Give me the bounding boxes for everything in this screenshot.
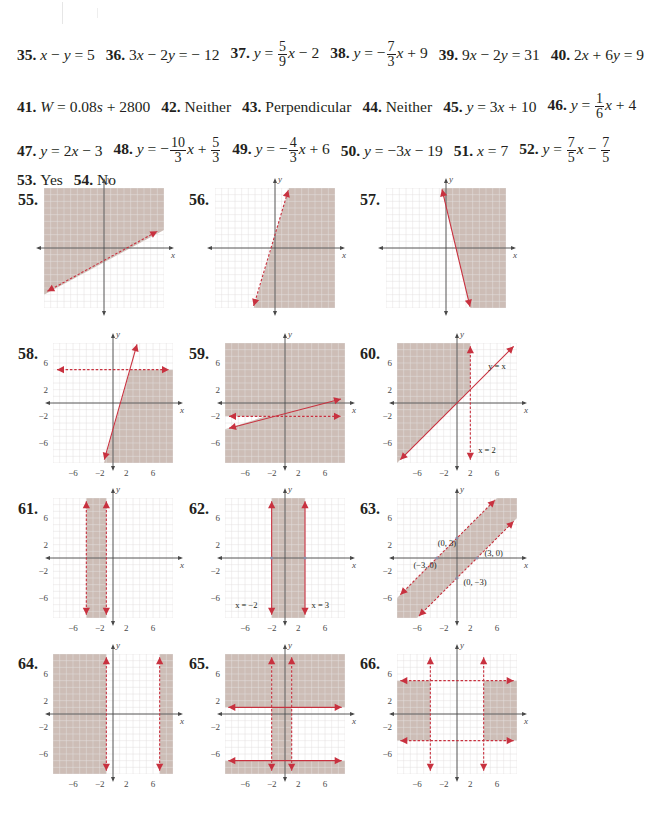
svg-text:−6: −6 xyxy=(68,468,78,478)
math-text: = − xyxy=(360,44,385,61)
svg-text:x: x xyxy=(341,250,346,260)
math-text: 2 xyxy=(574,46,582,63)
svg-text:−6: −6 xyxy=(240,779,250,789)
math-text: + 10 xyxy=(504,98,536,115)
svg-text:−6: −6 xyxy=(68,779,78,789)
answer-number: 42. xyxy=(161,98,184,115)
answer-item: 38. y = −73x + 9 xyxy=(330,40,428,69)
svg-text:(−3, 0): (−3, 0) xyxy=(413,560,436,570)
graph-number-59: 59. xyxy=(189,345,209,363)
answer-number: 35. xyxy=(17,46,40,63)
svg-text:−6: −6 xyxy=(382,749,392,759)
svg-text:x: x xyxy=(523,405,528,415)
answer-number: 38. xyxy=(330,44,353,61)
math-text: − 2 xyxy=(295,44,319,61)
answer-item: 39. 9x − 2y = 31 xyxy=(439,47,540,63)
svg-text:y: y xyxy=(115,640,120,650)
svg-text:−2: −2 xyxy=(382,722,392,732)
svg-text:−2: −2 xyxy=(439,623,449,633)
svg-text:x = 2: x = 2 xyxy=(478,445,496,455)
math-variable: y xyxy=(571,96,578,113)
page-edge-mark xyxy=(97,8,98,18)
svg-text:(0, 3): (0, 3) xyxy=(438,538,457,548)
svg-text:−6: −6 xyxy=(38,438,48,448)
svg-text:x: x xyxy=(179,405,184,415)
svg-text:6: 6 xyxy=(44,513,49,523)
math-variable: y xyxy=(168,46,175,63)
svg-text:6: 6 xyxy=(323,623,328,633)
math-variable: x xyxy=(605,96,612,113)
math-variable: x xyxy=(470,46,477,63)
svg-text:−2: −2 xyxy=(439,468,449,478)
svg-text:y: y xyxy=(459,484,464,494)
answer-number: 50. xyxy=(341,142,364,159)
svg-text:−6: −6 xyxy=(240,623,250,633)
fraction: 75 xyxy=(567,136,576,165)
fraction: 43 xyxy=(289,136,298,165)
svg-text:2: 2 xyxy=(124,779,129,789)
svg-text:6: 6 xyxy=(151,623,156,633)
answer-item: 40. 2x + 6y = 9 xyxy=(551,47,644,63)
answer-number: 40. xyxy=(551,46,574,63)
svg-text:−2: −2 xyxy=(38,411,48,421)
svg-text:2: 2 xyxy=(124,468,129,478)
answer-number: 45. xyxy=(443,98,466,115)
svg-text:−2: −2 xyxy=(382,411,392,421)
answer-item: 46. y = 16x + 4 xyxy=(547,92,636,121)
svg-text:−2: −2 xyxy=(439,779,449,789)
svg-text:−2: −2 xyxy=(38,566,48,576)
svg-text:−6: −6 xyxy=(38,593,48,603)
svg-text:−2: −2 xyxy=(95,623,105,633)
svg-text:−6: −6 xyxy=(210,438,220,448)
svg-text:2: 2 xyxy=(388,540,393,550)
svg-text:y = x: y = x xyxy=(488,361,506,371)
svg-text:6: 6 xyxy=(44,358,49,368)
svg-text:y: y xyxy=(459,329,464,339)
math-text: − 2 xyxy=(477,46,501,63)
answer-item: 48. y = −103x + 53 xyxy=(114,136,222,165)
svg-text:6: 6 xyxy=(323,779,328,789)
answer-item: 37. y = 59x − 2 xyxy=(230,40,319,69)
svg-text:2: 2 xyxy=(296,623,301,633)
math-text: + 6 xyxy=(589,46,613,63)
inequality-graph-57: xy xyxy=(368,170,524,336)
svg-text:6: 6 xyxy=(388,358,393,368)
answer-item: 50. y = −3x − 19 xyxy=(341,143,443,159)
svg-text:−6: −6 xyxy=(240,468,250,478)
svg-text:6: 6 xyxy=(388,513,393,523)
answer-number: 36. xyxy=(106,46,129,63)
svg-text:x: x xyxy=(523,560,528,570)
svg-text:2: 2 xyxy=(468,623,473,633)
math-text: = 31 xyxy=(508,46,540,63)
math-variable: y xyxy=(501,46,508,63)
math-text: = 0.08 xyxy=(53,98,97,115)
svg-text:x: x xyxy=(523,716,528,726)
fraction: 59 xyxy=(278,40,287,69)
math-text: + 4 xyxy=(612,96,636,113)
svg-text:2: 2 xyxy=(296,468,301,478)
svg-text:2: 2 xyxy=(44,540,49,550)
answer-line-1: 35. x − y = 536. 3x − 2y = − 1237. y = 5… xyxy=(17,40,648,69)
math-variable: x xyxy=(582,46,589,63)
math-variable: x xyxy=(137,46,144,63)
svg-text:6: 6 xyxy=(44,669,49,679)
math-text: 9 xyxy=(462,46,470,63)
math-text: = 3 xyxy=(473,98,497,115)
math-text: = − xyxy=(262,140,287,157)
fraction: 73 xyxy=(387,40,396,69)
svg-text:6: 6 xyxy=(216,669,221,679)
inequality-graph-65: xy−6−22662−2−6 xyxy=(207,636,363,802)
math-text: 3 xyxy=(129,46,137,63)
svg-text:−2: −2 xyxy=(95,468,105,478)
svg-text:2: 2 xyxy=(388,696,393,706)
svg-text:2: 2 xyxy=(468,779,473,789)
svg-text:−6: −6 xyxy=(382,593,392,603)
inequality-graph-66: xy−6−22662−2−6 xyxy=(379,636,535,802)
svg-text:−2: −2 xyxy=(210,411,220,421)
answer-item: 42. Neither xyxy=(161,99,231,115)
svg-text:−2: −2 xyxy=(210,566,220,576)
math-text: = 9 xyxy=(620,46,644,63)
fraction: 16 xyxy=(595,92,604,121)
svg-text:y: y xyxy=(287,484,292,494)
svg-text:y: y xyxy=(115,484,120,494)
